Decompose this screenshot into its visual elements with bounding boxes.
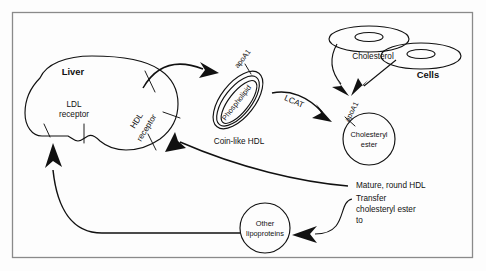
coin-hdl-apoa1-label: apoA1 [232,47,252,69]
other-lipoproteins-node: Other lipoproteins [240,203,290,253]
figure-canvas: Liver LDL receptor HDL receptor Phosphol… [0,0,486,271]
arrow-cholesterol-efflux-lower [351,60,396,96]
arrow-efflux-upper-line [332,44,341,84]
liver-label: Liver [62,66,85,77]
arrow-transfer-line [315,199,352,234]
lcat-label: LCAT [283,93,305,109]
transfer-label-line1: Transfer [356,194,386,203]
mature-hdl-caption: Mature, round HDL [356,181,426,190]
transfer-label-line3: to [356,216,363,225]
ldl-receptor-label-line2: receptor [59,110,89,119]
liver-outline [25,56,178,150]
arrow-other-lipoproteins-to-liver-line [53,170,240,233]
mature-hdl-node: Cholesteryl ester apoA1 [343,100,395,165]
arrow-mature-hdl-to-liver-head [165,132,186,152]
figure-border [13,13,473,258]
arrow-lcat: LCAT [272,92,332,122]
arrow-liver-to-coin-hdl-head [199,62,219,78]
arrow-transfer-head [292,226,317,243]
arrow-other-lipoproteins-to-liver-head [45,143,62,168]
cells-label: Cells [417,69,439,80]
arrow-efflux-lower-head [351,78,368,96]
arrow-liver-to-coin-hdl [143,62,219,88]
ldl-receptor-label-line1: LDL [66,100,81,109]
cholesteryl-ester-line1: Cholesteryl [351,130,388,139]
cholesterol-label: Cholesterol [352,52,394,61]
arrow-efflux-lower-line [364,60,396,86]
other-lipoproteins-line1: Other [256,219,275,228]
other-lipoproteins-line2: lipoproteins [246,229,284,238]
arrow-cholesterol-efflux-upper [332,44,349,96]
arrow-transfer-to-other-lipoproteins: Transfer cholesteryl ester to [292,194,416,243]
cell-upper-outline [329,26,409,52]
ldl-receptor-tick-a [44,124,50,137]
cells-node: Cholesterol Cells [329,26,461,80]
pathway-diagram: Liver LDL receptor HDL receptor Phosphol… [0,0,486,271]
arrow-mature-hdl-to-liver: Mature, round HDL [165,132,426,190]
transfer-label-line2: cholesteryl ester [356,205,416,214]
cholesteryl-ester-line2: ester [361,140,378,149]
arrow-lcat-head [312,104,332,122]
cell-lower-nucleus [407,50,435,59]
arrow-efflux-upper-head [332,78,349,96]
arrow-mature-hdl-to-liver-line [180,142,348,186]
coin-like-hdl-node: Phospholipid apoA1 Coin-like HDL [204,47,273,146]
mature-hdl-apoa1-label: apoA1 [343,100,361,123]
liver-node: Liver LDL receptor HDL receptor [25,56,180,150]
coin-hdl-caption: Coin-like HDL [214,137,265,146]
cell-upper-nucleus [355,33,383,42]
arrow-other-lipoproteins-to-liver [45,143,240,233]
